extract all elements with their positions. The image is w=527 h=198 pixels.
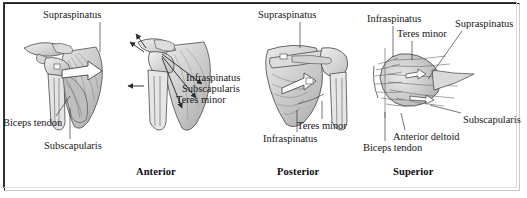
caption-posterior: Posterior	[277, 166, 319, 177]
label-anterior-deltoid: Anterior deltoid	[393, 131, 460, 143]
label-subscapularis-3: Subscapularis	[463, 114, 521, 126]
label-supraspinatus-3: Supraspinatus	[455, 18, 513, 30]
label-infraspinatus-3: Infraspinatus	[367, 13, 421, 25]
label-biceps-tendon-2: Biceps tendon	[363, 142, 422, 154]
caption-anterior: Anterior	[136, 166, 176, 177]
caption-superior: Superior	[393, 166, 433, 177]
label-teres-minor-3: Teres minor	[397, 28, 447, 40]
anatomy-figure: Supraspinatus Biceps tendon Subscapulari…	[0, 0, 527, 198]
leader-lines-superior	[0, 0, 527, 198]
